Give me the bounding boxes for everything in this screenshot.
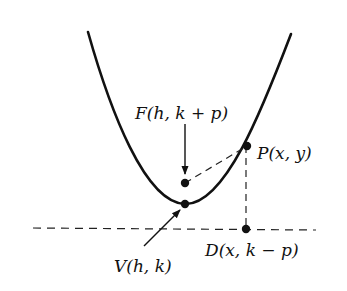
focus-label: F(h, k + p)	[134, 103, 228, 123]
vertex-point	[181, 200, 189, 208]
directrix-line	[33, 228, 316, 230]
vertex-label: V(h, k)	[114, 256, 172, 276]
directrix-point-label: D(x, k − p)	[204, 240, 299, 260]
point-d	[242, 225, 250, 233]
segment-fp	[185, 146, 247, 183]
point-p-label: P(x, y)	[256, 143, 312, 163]
point-p	[243, 142, 251, 150]
parabola-diagram: F(h, k + p) P(x, y) D(x, k − p) V(h, k)	[0, 0, 347, 291]
focus-point	[181, 179, 189, 187]
arrow-to-vertex	[144, 210, 180, 246]
